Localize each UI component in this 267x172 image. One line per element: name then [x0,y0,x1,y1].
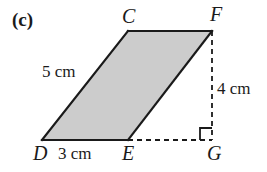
vertex-label-f: F [210,4,222,24]
geometry-figure: (c) C F D E G 5 cm 4 cm 3 cm [0,0,267,172]
part-label: (c) [12,10,33,29]
measurement-label-side-dc: 5 cm [42,63,76,80]
measurement-label-height-fg: 4 cm [217,80,251,97]
vertex-label-e: E [122,143,134,163]
vertex-label-d: D [33,143,47,163]
measurement-label-base-de: 3 cm [58,145,92,162]
vertex-label-c: C [122,6,135,26]
right-angle-marker-g [200,128,212,140]
parallelogram-fill [42,31,212,140]
vertex-label-g: G [207,143,221,163]
